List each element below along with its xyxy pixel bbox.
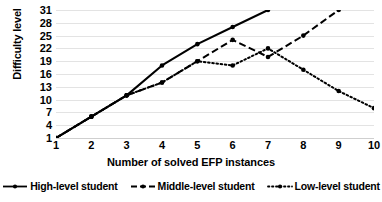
data-point-marker <box>195 42 200 47</box>
data-point-marker <box>301 33 306 38</box>
legend-swatch-solid <box>2 182 28 191</box>
data-point-marker <box>230 38 235 43</box>
legend-label: Low-level student <box>295 180 380 192</box>
data-point-marker <box>195 59 200 64</box>
data-point-marker <box>266 46 271 51</box>
y-tick-label: 28 <box>40 17 52 28</box>
gridline <box>56 138 374 139</box>
data-point-marker <box>266 55 271 60</box>
x-axis-tick-labels: 12345678910 <box>56 140 374 156</box>
y-tick-label: 4 <box>46 120 52 131</box>
series-layer <box>56 10 374 138</box>
x-tick-label: 4 <box>159 140 165 151</box>
legend-item[interactable]: Middle-level student <box>130 180 255 192</box>
x-tick-label: 9 <box>336 140 342 151</box>
legend-swatch-dashed <box>130 182 156 191</box>
x-tick-label: 8 <box>300 140 306 151</box>
data-point-marker <box>89 114 94 119</box>
legend-label: Middle-level student <box>158 180 255 192</box>
data-point-marker <box>124 93 129 98</box>
y-tick-label: 7 <box>46 107 52 118</box>
y-tick-label: 22 <box>40 43 52 54</box>
legend-item[interactable]: High-level student <box>2 180 117 192</box>
x-tick-label: 2 <box>88 140 94 151</box>
x-tick-label: 1 <box>53 140 59 151</box>
legend: High-level studentMiddle-level studentLo… <box>0 180 382 192</box>
y-tick-label: 16 <box>40 69 52 80</box>
x-tick-label: 5 <box>194 140 200 151</box>
data-point-marker <box>160 63 165 68</box>
plot-area <box>56 10 374 138</box>
y-tick-label: 1 <box>46 133 52 144</box>
y-tick-label: 19 <box>40 56 52 67</box>
data-point-marker <box>230 25 235 30</box>
y-axis-title: Difficulty level <box>11 0 23 99</box>
series-line <box>56 10 339 138</box>
x-tick-label: 3 <box>124 140 130 151</box>
legend-swatch-dotted <box>267 182 293 191</box>
x-axis-title: Number of solved EFP instances <box>0 156 382 168</box>
x-tick-label: 7 <box>265 140 271 151</box>
y-tick-label: 25 <box>40 30 52 41</box>
data-point-marker <box>301 67 306 72</box>
x-tick-label: 6 <box>230 140 236 151</box>
series-dashed <box>56 10 341 138</box>
chart-container: Difficulty level 1471013161922252831 123… <box>0 0 382 202</box>
y-tick-label: 10 <box>40 94 52 105</box>
data-point-marker <box>372 106 374 111</box>
y-tick-label: 31 <box>40 5 52 16</box>
legend-label: High-level student <box>30 180 117 192</box>
data-point-marker <box>336 10 341 12</box>
y-axis-tick-labels: 1471013161922252831 <box>26 10 52 138</box>
series-line <box>56 48 374 138</box>
data-point-marker <box>160 80 165 85</box>
legend-item[interactable]: Low-level student <box>267 180 380 192</box>
data-point-marker <box>336 89 341 94</box>
y-tick-label: 13 <box>40 81 52 92</box>
data-point-marker <box>230 63 235 68</box>
x-tick-label: 10 <box>368 140 380 151</box>
series-dotted <box>56 46 374 138</box>
data-point-marker <box>266 10 271 12</box>
